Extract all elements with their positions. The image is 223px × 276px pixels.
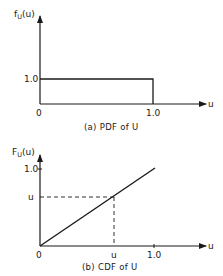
pdf-y-tick-1: 1.0 — [24, 74, 39, 84]
cdf-x-tick-0: 0 — [36, 250, 42, 260]
cdf-x-tick-u: u — [111, 250, 117, 260]
pdf-x-tick-0: 0 — [36, 108, 42, 118]
cdf-caption: (b) CDF of U — [82, 262, 138, 272]
pdf-panel: fU(u) 1.0 0 1.0 u (a) PDF of U — [14, 9, 214, 132]
cdf-y-tick-1: 1.0 — [24, 164, 39, 174]
cdf-y-label: FU(u) — [12, 147, 35, 159]
cdf-panel: FU(u) u 1.0 0 u 1.0 u (b) CDF of U — [12, 147, 214, 272]
cdf-curve — [40, 168, 155, 246]
cdf-x-tick-1: 1.0 — [147, 250, 162, 260]
uniform-distribution-diagram: fU(u) 1.0 0 1.0 u (a) PDF of U FU(u) u 1… — [0, 0, 223, 276]
cdf-x-label: u — [208, 241, 214, 251]
cdf-y-tick-u: u — [28, 192, 34, 202]
pdf-x-label: u — [208, 99, 214, 109]
pdf-x-tick-1: 1.0 — [146, 108, 161, 118]
pdf-curve — [40, 79, 153, 104]
pdf-y-label: fU(u) — [14, 9, 35, 21]
pdf-caption: (a) PDF of U — [84, 122, 139, 132]
